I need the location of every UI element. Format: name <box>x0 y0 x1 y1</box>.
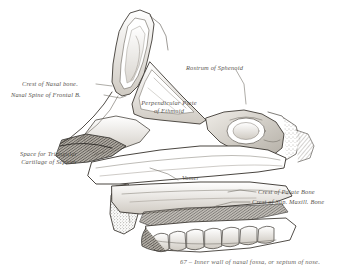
label-perp-plate-line2: of Ethmoid <box>126 107 212 115</box>
label-space-triangular-line1: Space for Triangular <box>20 150 77 158</box>
nasal-septum-illustration <box>0 0 361 279</box>
label-space-for-triangular-cartilage: Space for Triangular Cartilage of Septum <box>20 150 77 166</box>
label-vomer: Vomer <box>182 174 199 182</box>
anatomical-plate: Crest of Nasal bone. Nasal Spine of Fron… <box>0 0 361 279</box>
label-crest-of-palate-bone: Crest of Palate Bone <box>258 188 315 196</box>
caption-dash: – <box>189 258 193 265</box>
figure-number: 67 <box>180 258 187 265</box>
label-crest-of-sup-maxill-bone: Crest of Sup. Maxill. Bone <box>252 198 324 206</box>
label-nasal-spine-of-frontal-bone: Nasal Spine of Frontal B. <box>11 91 81 99</box>
label-rostrum-of-sphenoid: Rostrum of Sphenoid <box>186 64 243 72</box>
leader-crest-nasal-bone <box>96 84 112 86</box>
label-crest-of-nasal-bone: Crest of Nasal bone. <box>22 80 78 88</box>
caption-text: Inner wall of nasal fossa, or septum of … <box>194 258 320 265</box>
label-space-triangular-line2: Cartilage of Septum <box>20 158 77 166</box>
figure-caption: 67 – Inner wall of nasal fossa, or septu… <box>180 258 320 265</box>
label-perpendicular-plate-of-ethmoid: Perpendicular Plate of Ethmoid <box>126 99 212 115</box>
leader-rostrum <box>236 70 246 104</box>
label-perp-plate-line1: Perpendicular Plate <box>126 99 212 107</box>
